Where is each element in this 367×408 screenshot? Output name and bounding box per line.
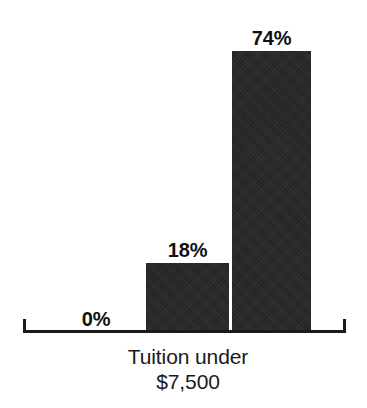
x-axis-tick-left [23, 319, 26, 331]
bar-2 [232, 51, 311, 331]
x-axis-line [23, 330, 346, 333]
x-axis-label-line-2: $7,500 [0, 369, 367, 394]
bar-value-label-0: 0% [64, 309, 128, 329]
bar-1 [146, 263, 229, 331]
x-axis-tick-right [343, 319, 346, 331]
plot-area: 0% 18% 74% [0, 0, 367, 335]
x-axis-label-line-1: Tuition under [0, 344, 367, 369]
x-axis-label: Tuition under $7,500 [0, 344, 367, 394]
bar-value-label-2: 74% [232, 28, 311, 48]
bar-chart: 0% 18% 74% Tuition under $7,500 [0, 0, 367, 408]
bar-value-label-1: 18% [146, 240, 229, 260]
